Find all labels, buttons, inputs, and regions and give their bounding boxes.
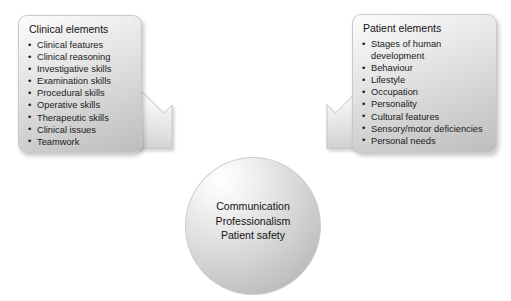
list-item: Clinical reasoning [28, 51, 133, 63]
list-item: Clinical issues [28, 124, 133, 136]
list-item: Investigative skills [28, 63, 133, 75]
clinical-elements-list: Clinical features Clinical reasoning Inv… [28, 39, 133, 148]
list-item: Operative skills [28, 99, 133, 111]
list-item: Personality [362, 98, 488, 110]
diagram-canvas: Clinical elements Clinical features Clin… [0, 0, 511, 301]
list-item: Behaviour [362, 62, 488, 74]
patient-elements-panel: Patient elements Stages of human develop… [352, 14, 497, 153]
clinical-elements-title: Clinical elements [29, 23, 133, 36]
clinical-elements-panel: Clinical elements Clinical features Clin… [18, 15, 142, 153]
list-item: Procedural skills [28, 87, 133, 99]
list-item: Lifestyle [362, 74, 488, 86]
list-item: Teamwork [28, 136, 133, 148]
list-item: Occupation [362, 86, 488, 98]
list-item: Stages of human development [362, 38, 488, 62]
central-circle: Communication Professionalism Patient sa… [185, 157, 321, 295]
central-line: Communication [216, 199, 291, 214]
patient-elements-list: Stages of human development Behaviour Li… [362, 38, 488, 147]
list-item: Therapeutic skills [28, 112, 133, 124]
list-item: Examination skills [28, 75, 133, 87]
list-item: Clinical features [28, 39, 133, 51]
list-item: Personal needs [362, 135, 488, 147]
patient-elements-title: Patient elements [363, 22, 488, 35]
list-item: Cultural features [362, 111, 488, 123]
central-line: Professionalism [216, 214, 291, 229]
central-circle-text: Communication Professionalism Patient sa… [216, 199, 291, 243]
list-item: Sensory/motor deficiencies [362, 123, 488, 135]
central-line: Patient safety [216, 228, 291, 243]
